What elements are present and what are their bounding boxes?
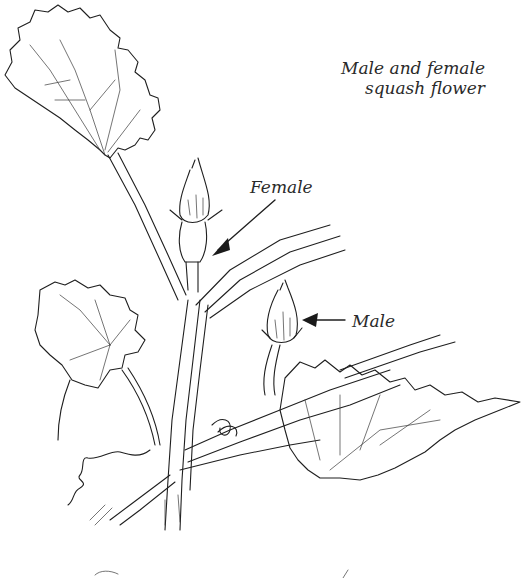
female-label: Female (250, 177, 313, 197)
caption-line-2: squash flower (341, 78, 485, 98)
female-flower (170, 158, 222, 292)
male-label: Male (352, 311, 395, 331)
top-leaf (5, 5, 160, 158)
male-flower (262, 280, 302, 395)
male-arrow (302, 313, 345, 327)
right-leaf (280, 335, 520, 480)
caption-line-1: Male and female (341, 58, 485, 78)
female-arrow (212, 200, 275, 256)
main-stem (90, 225, 400, 530)
figure-caption: Male and female squash flower (341, 58, 485, 98)
left-leaf (35, 280, 160, 445)
